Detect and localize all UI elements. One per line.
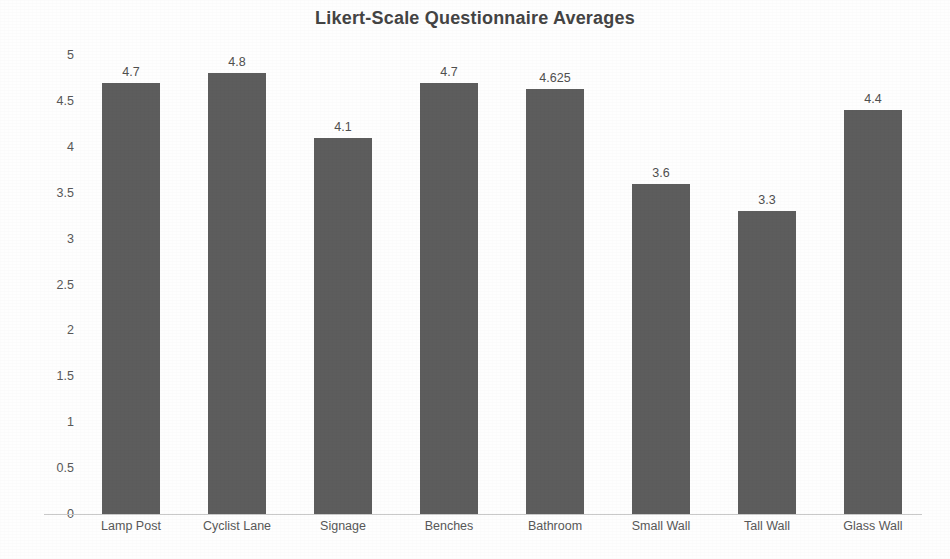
- x-tick-label: Small Wall: [608, 519, 714, 533]
- bar-group: 4.7: [396, 55, 502, 514]
- x-tick-label: Bathroom: [502, 519, 608, 533]
- chart-title: Likert-Scale Questionnaire Averages: [0, 8, 950, 29]
- bar-value-label: 4.8: [184, 55, 290, 69]
- y-tick-label: 5: [0, 48, 74, 62]
- bar[interactable]: [844, 110, 902, 514]
- y-tick-label: 3.5: [0, 186, 74, 200]
- y-tick-label: 2: [0, 323, 74, 337]
- bar-group: 4.4: [820, 55, 926, 514]
- bar[interactable]: [420, 83, 478, 514]
- x-tick-label: Cyclist Lane: [184, 519, 290, 533]
- bar[interactable]: [738, 211, 796, 514]
- chart-figure: Likert-Scale Questionnaire Averages 54.5…: [0, 0, 950, 559]
- y-tick-label: 1.5: [0, 369, 74, 383]
- bar-group: 3.3: [714, 55, 820, 514]
- bar-value-label: 3.3: [714, 193, 820, 207]
- bar-group: 4.8: [184, 55, 290, 514]
- x-tick-label: Signage: [290, 519, 396, 533]
- x-tick-label: Benches: [396, 519, 502, 533]
- plot-area: 4.74.84.14.74.6253.63.34.4: [78, 55, 923, 514]
- bar-group: 4.7: [78, 55, 184, 514]
- y-tick-label: 4.5: [0, 94, 74, 108]
- bar-group: 3.6: [608, 55, 714, 514]
- bar[interactable]: [632, 184, 690, 514]
- bar-value-label: 4.7: [396, 65, 502, 79]
- x-tick-label: Tall Wall: [714, 519, 820, 533]
- y-axis: 54.543.532.521.510.50: [0, 55, 74, 514]
- y-tick-label: 1: [0, 415, 74, 429]
- bar-group: 4.625: [502, 55, 608, 514]
- bar-value-label: 4.4: [820, 92, 926, 106]
- bar[interactable]: [526, 89, 584, 514]
- bar-value-label: 4.1: [290, 120, 396, 134]
- bar-value-label: 4.625: [502, 71, 608, 85]
- x-axis: Lamp PostCyclist LaneSignageBenchesBathr…: [78, 519, 923, 549]
- y-tick-label: 2.5: [0, 278, 74, 292]
- bar[interactable]: [314, 138, 372, 514]
- bar-value-label: 3.6: [608, 166, 714, 180]
- x-axis-baseline: [44, 514, 922, 515]
- x-tick-label: Glass Wall: [820, 519, 926, 533]
- y-tick-label: 0.5: [0, 461, 74, 475]
- bar[interactable]: [102, 83, 160, 514]
- bar-group: 4.1: [290, 55, 396, 514]
- bar-value-label: 4.7: [78, 65, 184, 79]
- y-tick-label: 4: [0, 140, 74, 154]
- bar[interactable]: [208, 73, 266, 514]
- x-tick-label: Lamp Post: [78, 519, 184, 533]
- y-tick-label: 3: [0, 232, 74, 246]
